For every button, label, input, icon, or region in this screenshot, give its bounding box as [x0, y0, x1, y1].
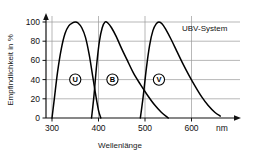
series-marker-label-u: U	[73, 75, 78, 84]
ytick-label-60: 60	[31, 55, 41, 65]
xtick-label-500: 500	[138, 123, 152, 133]
xtick-label-600: 600	[184, 123, 198, 133]
series-marker-v: V	[153, 74, 164, 85]
x-axis-unit: nm	[216, 123, 228, 133]
series-marker-b: B	[107, 74, 118, 85]
x-axis-title: Wellenlänge	[98, 141, 142, 150]
series-marker-u: U	[70, 74, 81, 85]
ytick-label-100: 100	[26, 17, 40, 27]
system-annotation: UBV-System	[182, 24, 228, 33]
series-marker-label-b: B	[110, 75, 116, 84]
xtick-label-400: 400	[91, 123, 105, 133]
xtick-label-300: 300	[45, 123, 59, 133]
series-marker-label-v: V	[156, 75, 161, 84]
ytick-label-0: 0	[35, 113, 40, 123]
y-axis-title: Empfindlichkeit in %	[6, 34, 15, 106]
ubv-sensitivity-chart: 100 80 60 40 20 0 Empfindlichkeit in % 3…	[0, 0, 258, 156]
ytick-label-40: 40	[31, 75, 41, 85]
ytick-label-20: 20	[31, 94, 41, 104]
ytick-label-80: 80	[31, 36, 41, 46]
